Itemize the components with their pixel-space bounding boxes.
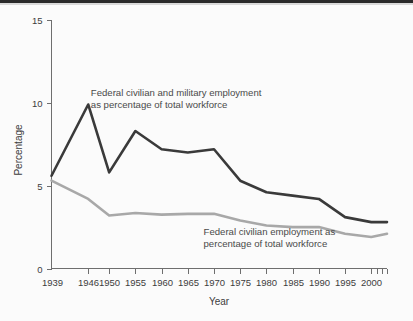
x-tick-label: 1985 bbox=[283, 277, 304, 288]
chart-annotations-group: Federal civilian and military employment… bbox=[91, 87, 336, 249]
x-tick-label: 1995 bbox=[335, 277, 356, 288]
y-tick-marks-group bbox=[47, 21, 52, 270]
x-tick-label: 1960 bbox=[152, 277, 173, 288]
y-tick-label: 5 bbox=[37, 181, 42, 192]
x-tick-label: 1939 bbox=[42, 277, 63, 288]
total-employment-annotation: Federal civilian and military employment… bbox=[91, 87, 262, 110]
y-axis-title: Percentage bbox=[13, 124, 24, 176]
x-tick-label: 1955 bbox=[125, 277, 146, 288]
x-tick-label: 1950 bbox=[99, 277, 120, 288]
x-tick-label: 1990 bbox=[309, 277, 330, 288]
y-tick-labels-group: 051015 bbox=[32, 15, 43, 275]
line-chart-plot: 051015 193919461950195519601965197019751… bbox=[0, 0, 413, 321]
y-tick-label: 10 bbox=[32, 98, 43, 109]
x-tick-label: 1980 bbox=[256, 277, 277, 288]
x-tick-label: 1970 bbox=[204, 277, 225, 288]
x-tick-label: 1975 bbox=[230, 277, 251, 288]
data-series-group bbox=[52, 104, 388, 237]
x-tick-label: 1946 bbox=[78, 277, 99, 288]
civilian-employment-annotation: Federal civilian employment aspercentage… bbox=[204, 226, 336, 249]
x-tick-label: 1965 bbox=[178, 277, 199, 288]
series-line-0 bbox=[52, 104, 388, 222]
y-tick-label: 15 bbox=[32, 15, 43, 26]
chart-figure: 051015 193919461950195519601965197019751… bbox=[0, 0, 413, 321]
x-tick-labels-group: 1939194619501955196019651970197519801985… bbox=[42, 277, 382, 288]
x-tick-marks-group bbox=[89, 269, 388, 274]
y-tick-label: 0 bbox=[37, 264, 42, 275]
x-tick-label: 2000 bbox=[361, 277, 382, 288]
x-axis-title: Year bbox=[209, 296, 230, 307]
